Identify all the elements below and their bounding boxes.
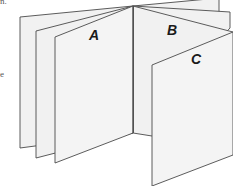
- label-b: B: [167, 22, 177, 38]
- cropped-text-top: n.: [0, 0, 7, 6]
- label-a: A: [88, 27, 99, 43]
- label-c: C: [191, 51, 202, 67]
- book-diagram: n. e A B C: [0, 0, 233, 186]
- cropped-text-mid: e: [0, 69, 4, 79]
